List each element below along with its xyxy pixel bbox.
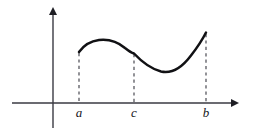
function-graph-figure: a c b: [0, 0, 254, 135]
x-tick-label-a: a: [69, 106, 89, 119]
x-tick-label-b: b: [196, 106, 216, 119]
y-axis-arrow-icon: [49, 7, 57, 15]
x-tick-label-c: c: [124, 106, 144, 119]
x-axis-arrow-icon: [231, 99, 239, 107]
function-curve: [79, 33, 206, 73]
